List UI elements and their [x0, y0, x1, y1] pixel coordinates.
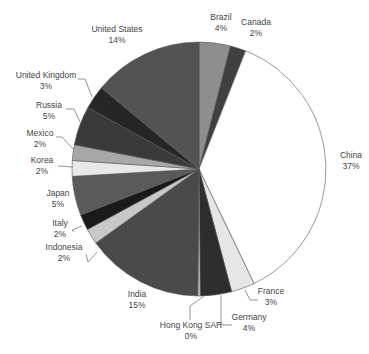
leader-line [190, 296, 204, 320]
leader-line [58, 166, 73, 167]
slice-label: France3% [258, 286, 285, 307]
slice-label: Indonesia2% [46, 242, 83, 263]
leader-line [72, 226, 82, 232]
slice-label: Korea2% [31, 155, 54, 176]
slice-label: Germany4% [232, 312, 268, 333]
slice-label: Mexico2% [27, 128, 54, 149]
leader-line [78, 79, 92, 97]
leader-line [221, 295, 232, 325]
leader-line [56, 137, 73, 149]
slice-label: Hong Kong SAR0% [160, 320, 222, 341]
slice-label: Japan5% [46, 188, 69, 209]
leader-line [245, 290, 258, 300]
slice-label: China37% [340, 150, 362, 171]
leader-line [66, 109, 80, 122]
slice-label: Brazil4% [210, 12, 231, 33]
slice-label: United Kingdom3% [16, 70, 76, 91]
slice-label: United States14% [91, 24, 142, 45]
slice-label: Italy2% [52, 218, 68, 239]
leader-line [86, 252, 97, 262]
slice-label: Canada2% [241, 17, 271, 38]
slice-label: India15% [128, 289, 147, 310]
pie-chart: China37%France3%Germany4%Hong Kong SAR0%… [0, 0, 369, 354]
pie-slices [72, 42, 326, 296]
slice-label: Russia5% [36, 100, 62, 121]
